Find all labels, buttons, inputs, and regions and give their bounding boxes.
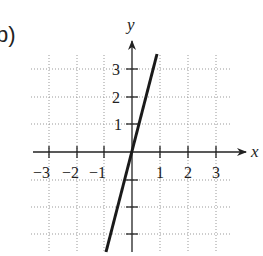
y-tick-label: 1 [114,116,122,133]
y-axis-label: y [125,15,135,34]
x-tick-label: 2 [184,164,192,181]
x-tick-label: 3 [212,164,220,181]
x-tick-label: −1 [89,164,106,181]
y-tick-label: 3 [112,61,120,78]
x-tick-label: −3 [33,164,50,181]
x-axis-label: x [250,142,259,161]
x-tick-label: −2 [62,164,79,181]
graph: b) y x −3 −2 −1 1 2 3 1 2 3 [0,0,263,256]
y-tick-label: 2 [112,89,120,106]
part-label: b) [0,22,16,47]
x-tick-label: 1 [156,164,164,181]
